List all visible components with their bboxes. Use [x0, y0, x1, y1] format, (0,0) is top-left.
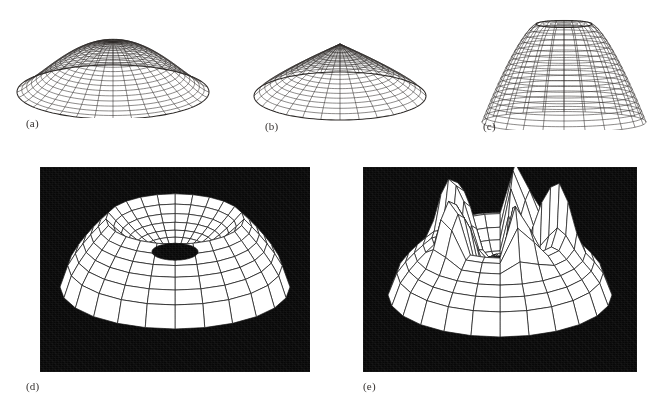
panel-e-crown-mesh [363, 167, 637, 372]
panel-c [464, 2, 664, 130]
panel-b [250, 24, 430, 122]
panel-a-wireframe [8, 14, 218, 118]
panel-e [363, 167, 637, 372]
panel-a-caption: (a) [26, 117, 39, 129]
panel-e-surface [363, 167, 637, 372]
panel-d-surface [40, 167, 310, 372]
panel-d [40, 167, 310, 372]
panel-c-caption: (c) [483, 120, 496, 132]
panel-c-wireframe [464, 2, 664, 130]
panel-a [8, 14, 218, 118]
panel-d-crater-mesh [40, 167, 310, 372]
panel-b-caption: (b) [265, 120, 278, 132]
figure-root: (a) (b) (c) (d) (e) [0, 0, 672, 403]
panel-e-caption: (e) [363, 380, 376, 392]
panel-b-wireframe [250, 24, 430, 122]
panel-d-caption: (d) [26, 380, 39, 392]
